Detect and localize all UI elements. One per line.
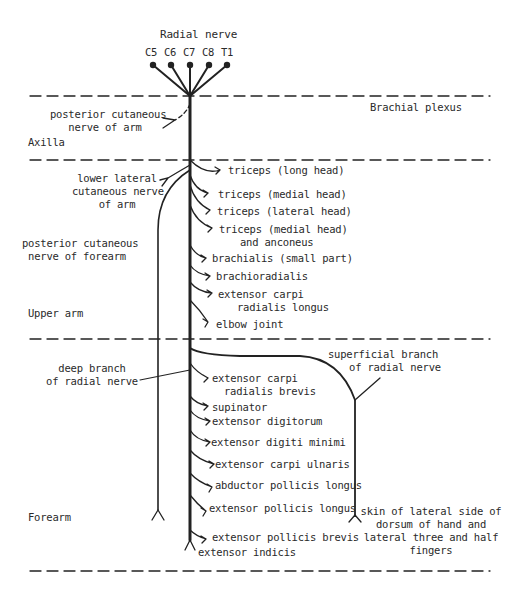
root-c8: C8 [202,46,214,59]
label-extensor-digiti-minimi: extensor digiti minimi [211,436,346,449]
label-line: skin of lateral side of [356,505,505,518]
label-extensor-carpi-radialis-longus-2: radialis longus [237,301,329,314]
label-posterior-cutaneous-nerve-of-forearm: posterior cutaneous nerve of forearm [22,237,132,263]
label-supinator: supinator [212,401,267,414]
label-line: of radial nerve [318,361,448,374]
label-lower-lateral-cutaneous-nerve-of-arm: lower lateral cutaneous nerve of arm [72,172,162,211]
region-brachial-plexus: Brachial plexus [370,101,462,114]
label-line: posterior cutaneous [50,108,160,121]
label-line: fingers [356,544,505,557]
label-extensor-pollicis-brevis: extensor pollicis brevis [212,531,359,544]
label-triceps-lateral-head: triceps (lateral head) [217,205,352,218]
label-skin-lateral-dorsum-hand: skin of lateral side of dorsum of hand a… [356,505,505,557]
label-extensor-carpi-radialis-longus-1: extensor carpi [218,288,304,301]
label-line: lower lateral [72,172,162,185]
label-triceps-long-head: triceps (long head) [228,164,344,177]
label-brachioradialis: brachioradialis [216,270,308,283]
label-line: lateral three and half [356,531,505,544]
label-extensor-pollicis-longus: extensor pollicis longus [209,502,356,515]
label-deep-branch-of-radial-nerve: deep branch of radial nerve [42,362,142,388]
label-brachialis: brachialis (small part) [212,252,353,265]
label-extensor-carpi-ulnaris: extensor carpi ulnaris [215,458,350,471]
label-line: dorsum of hand and [356,518,505,531]
root-c7: C7 [183,46,195,59]
label-line: nerve of arm [50,121,160,134]
region-forearm: Forearm [28,511,71,524]
label-superficial-branch-of-radial-nerve: superficial branch of radial nerve [318,348,448,374]
label-abductor-pollicis-longus: abductor pollicis longus [215,479,362,492]
label-line: superficial branch [318,348,448,361]
label-line: posterior cutaneous [22,237,132,250]
root-c5: C5 [145,46,157,59]
label-elbow-joint: elbow joint [216,318,283,331]
label-line: cutaneous nerve [72,185,162,198]
label-extensor-digitorum: extensor digitorum [212,415,322,428]
label-posterior-cutaneous-nerve-of-arm: posterior cutaneous nerve of arm [50,108,160,134]
label-and-anconeus: and anconeus [240,236,313,249]
region-axilla: Axilla [28,136,65,149]
region-upper-arm: Upper arm [28,307,83,320]
root-t1: T1 [221,46,233,59]
label-line: deep branch [42,362,142,375]
diagram-title: Radial nerve [160,28,237,41]
root-c6: C6 [164,46,176,59]
nerve-roots [153,65,227,96]
label-line: of arm [72,198,162,211]
label-extensor-carpi-radialis-brevis-1: extensor carpi [212,372,298,385]
label-triceps-medial-head: triceps (medial head) [218,188,347,201]
label-extensor-carpi-radialis-brevis-2: radialis brevis [224,385,316,398]
label-line: nerve of forearm [22,250,132,263]
label-line: of radial nerve [42,375,142,388]
label-triceps-medial-head-anconeus: triceps (medial head) [219,223,348,236]
label-extensor-indicis: extensor indicis [198,546,296,559]
